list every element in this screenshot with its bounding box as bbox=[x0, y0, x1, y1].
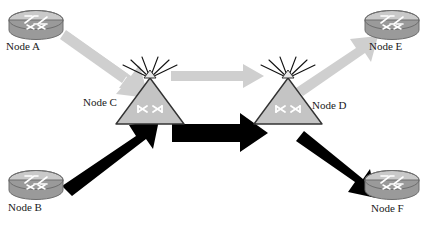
node-b-label: Node B bbox=[8, 202, 42, 213]
node-a-icon[interactable] bbox=[9, 11, 63, 40]
link-arrow-d-to-e bbox=[296, 36, 378, 96]
node-b-icon[interactable] bbox=[9, 171, 63, 200]
node-d-label: Node D bbox=[312, 100, 347, 111]
node-a-label: Node A bbox=[6, 41, 40, 52]
node-e-icon[interactable] bbox=[365, 11, 419, 40]
node-c-label: Node C bbox=[83, 97, 117, 108]
link-arrow-c-to-d bbox=[171, 64, 264, 88]
link-arrow-b-to-c bbox=[62, 120, 159, 196]
node-f-label: Node F bbox=[371, 203, 404, 214]
diagram-canvas bbox=[0, 0, 429, 225]
link-arrow-c2-to-d bbox=[172, 113, 268, 152]
network-diagram: Node A Node B Node C Node D Node E Node … bbox=[0, 0, 429, 225]
node-e-label: Node E bbox=[369, 41, 402, 52]
node-d-icon[interactable] bbox=[254, 57, 322, 124]
node-f-icon[interactable] bbox=[365, 171, 419, 200]
link-arrow-d-to-f bbox=[296, 131, 376, 198]
